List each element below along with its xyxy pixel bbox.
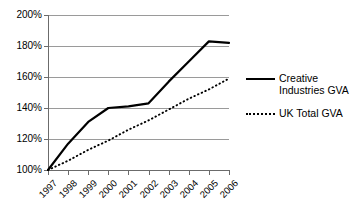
legend-label-uk-total-gva: UK Total GVA bbox=[279, 107, 343, 119]
solid-line-swatch-icon bbox=[246, 72, 275, 86]
legend: Creative Industries GVA UK Total GVA bbox=[246, 72, 364, 132]
legend-item-creative-industries-gva: Creative Industries GVA bbox=[246, 72, 364, 96]
line-chart: 100%120%140%160%180%200% 199719981999200… bbox=[0, 0, 364, 215]
dotted-line-swatch-icon bbox=[246, 107, 275, 121]
series-uk-total-gva-line bbox=[48, 79, 229, 170]
legend-label-creative-industries-gva: Creative Industries GVA bbox=[279, 72, 363, 96]
legend-item-uk-total-gva: UK Total GVA bbox=[246, 107, 364, 121]
series-creative-industries-gva-line bbox=[48, 41, 229, 170]
